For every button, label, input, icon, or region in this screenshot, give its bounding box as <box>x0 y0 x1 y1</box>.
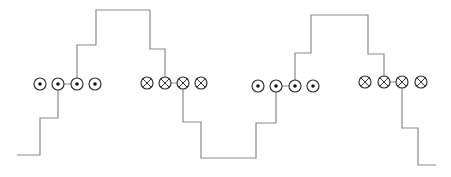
conductor-groups <box>34 76 427 92</box>
conductor-dot-icon <box>71 78 83 90</box>
conductor-dot-icon <box>289 80 301 92</box>
conductor-cross-icon <box>195 77 207 89</box>
conductor-dot-icon <box>307 80 319 92</box>
conductor-cross-icon <box>177 77 189 89</box>
conductor-cross-icon <box>378 76 390 88</box>
conductor-cross-icon <box>159 77 171 89</box>
conductor-dot-icon <box>52 78 64 90</box>
conductor-cross-icon <box>141 77 153 89</box>
conductor-cross-icon <box>359 76 371 88</box>
conductor-dot-icon <box>252 80 264 92</box>
conductor-cross-icon <box>415 76 427 88</box>
conductor-dot-icon <box>34 78 46 90</box>
conductor-dot-icon <box>270 80 282 92</box>
conductor-dot-icon <box>89 78 101 90</box>
mmf-diagram <box>0 0 451 177</box>
conductor-cross-icon <box>396 76 408 88</box>
